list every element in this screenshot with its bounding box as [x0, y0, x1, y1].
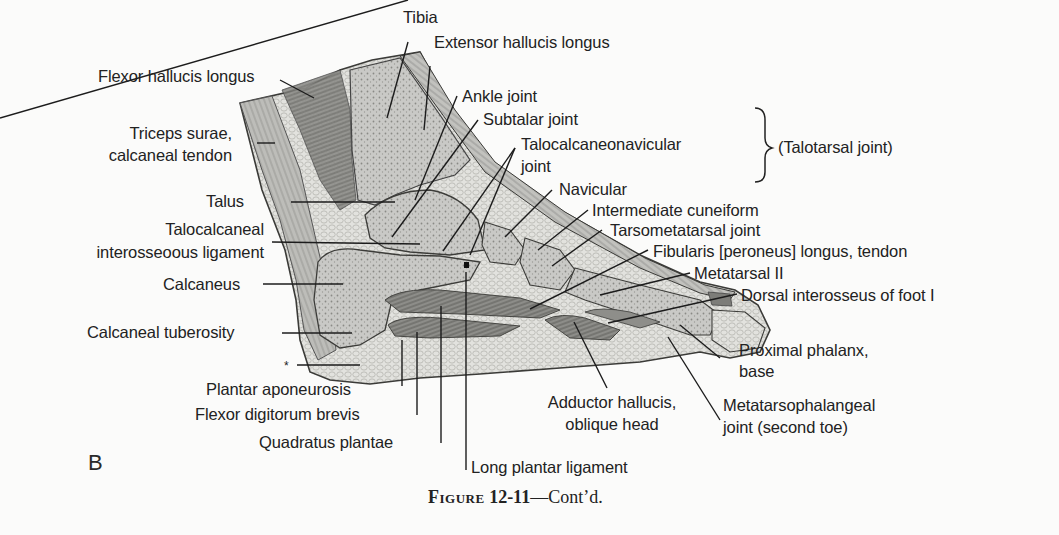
- long-plantar-ligament-marker: [464, 262, 469, 268]
- label-plantar-aponeurosis: Plantar aponeurosis: [206, 379, 351, 399]
- label-metatarsophalangeal-line2: joint (second toe): [723, 417, 848, 437]
- label-dorsal-interosseus-foot-i: Dorsal interosseus of foot I: [741, 285, 934, 305]
- label-flexor-hallucis-longus: Flexor hallucis longus: [98, 66, 254, 86]
- caption-prefix: Figure: [428, 487, 485, 507]
- talotarsal-bracket: [755, 108, 772, 182]
- label-adductor-hallucis-line1: Adductor hallucis,: [524, 392, 700, 412]
- label-metatarsophalangeal-line1: Metatarsophalangeal: [723, 395, 875, 415]
- label-long-plantar-ligament: Long plantar ligament: [471, 457, 628, 477]
- label-triceps-surae-line1: Triceps surae,: [96, 123, 232, 143]
- caption-number: 12-11: [489, 487, 530, 507]
- label-metatarsal-ii: Metatarsal II: [694, 263, 783, 283]
- label-quadratus-plantae: Quadratus plantae: [259, 432, 393, 452]
- label-calcaneal-tuberosity: Calcaneal tuberosity: [87, 322, 235, 342]
- label-extensor-hallucis-longus: Extensor hallucis longus: [434, 32, 610, 52]
- label-talotarsal-joint-group: (Talotarsal joint): [778, 137, 893, 157]
- label-talocalcaneal-line2: interosseoous ligament: [40, 242, 264, 262]
- label-talocalcaneal-line1: Talocalcaneal: [136, 219, 264, 239]
- caption-suffix: —Cont’d.: [530, 487, 603, 507]
- label-talocalcaneonavicular-joint-line1: Talocalcaneonavicular: [521, 134, 681, 154]
- label-ankle-joint: Ankle joint: [462, 86, 537, 106]
- figure-12-11-panel-b: Tibia Extensor hallucis longus Flexor ha…: [0, 0, 1059, 535]
- panel-letter: B: [88, 450, 103, 476]
- label-fibularis-longus-tendon: Fibularis [peroneus] longus, tendon: [653, 241, 907, 261]
- label-adductor-hallucis-line2: oblique head: [524, 414, 700, 434]
- label-talus: Talus: [206, 191, 244, 211]
- figure-caption: Figure 12-11—Cont’d.: [428, 487, 603, 508]
- label-talocalcaneonavicular-joint-line2: joint: [521, 156, 551, 176]
- label-flexor-digitorum-brevis: Flexor digitorum brevis: [195, 404, 360, 424]
- label-proximal-phalanx-line1: Proximal phalanx,: [739, 340, 868, 360]
- label-navicular: Navicular: [559, 179, 627, 199]
- label-tibia: Tibia: [403, 7, 438, 27]
- label-tarsometatarsal-joint: Tarsometatarsal joint: [610, 220, 760, 240]
- label-asterisk: *: [284, 356, 289, 376]
- label-subtalar-joint: Subtalar joint: [483, 109, 578, 129]
- label-proximal-phalanx-line2: base: [739, 361, 774, 381]
- label-triceps-surae-line2: calcaneal tendon: [66, 145, 232, 165]
- label-calcaneus: Calcaneus: [163, 274, 240, 294]
- label-intermediate-cuneiform: Intermediate cuneiform: [592, 200, 759, 220]
